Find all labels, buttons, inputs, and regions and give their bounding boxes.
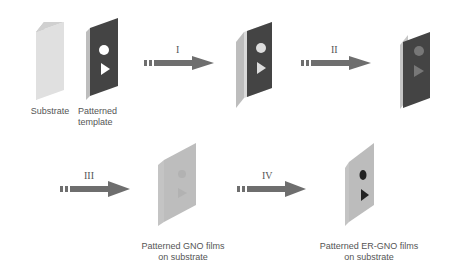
stacked-plate (236, 22, 272, 108)
circle-pattern-icon (360, 170, 367, 180)
substrate-plate (36, 22, 64, 100)
gno-film-plate (158, 143, 196, 226)
arrow-step-2 (301, 56, 371, 70)
step-numeral-1: I (176, 44, 179, 55)
label-template: Patterned template (78, 106, 128, 128)
circle-pattern-icon (99, 45, 109, 55)
label-substrate: Substrate (20, 106, 80, 117)
coated-plate (400, 32, 430, 109)
arrow-step-1 (144, 56, 214, 70)
step-numeral-3: III (84, 170, 94, 181)
step-numeral-2: II (331, 44, 338, 55)
step-numeral-4: IV (262, 170, 273, 181)
er-gno-film-plate (345, 143, 374, 226)
patterned-template (86, 18, 118, 100)
label-gno-films: Patterned GNO films on substrate (128, 241, 238, 263)
diagram-canvas (0, 0, 453, 275)
arrow-step-4 (237, 181, 306, 197)
arrow-step-3 (60, 181, 130, 197)
label-er-gno-films: Patterned ER-GNO films on substrate (304, 241, 434, 263)
